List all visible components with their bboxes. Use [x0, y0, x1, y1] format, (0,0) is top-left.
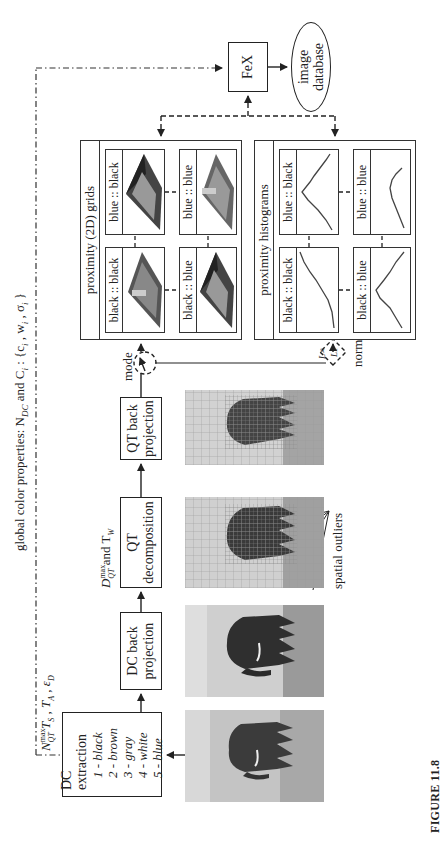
- figure-caption: FIGURE 11.8: [428, 760, 443, 833]
- norm-option-l1: L1: [330, 347, 339, 357]
- dc-parameters-label: NmaxQT TS , TA , εD: [38, 675, 56, 751]
- qt-decomposition-block: QT decomposition: [120, 497, 162, 588]
- norm-option-linf: L∞: [318, 348, 327, 359]
- global-properties-label: global color properties: NDC and Ci : {c…: [12, 293, 30, 551]
- grid-dashed-links: [81, 139, 243, 339]
- hist-dashed-links: [255, 139, 417, 339]
- dc-extraction-title: DC extraction: [59, 713, 89, 790]
- elephant-qt-back-image: [185, 390, 324, 465]
- qt-back-projection-block: QT back projection: [120, 397, 162, 460]
- fex-block: FeX: [228, 42, 268, 92]
- mode-label: mode: [120, 352, 136, 381]
- norm-label: norm: [350, 340, 366, 367]
- dc-color-black: 1 - black: [90, 733, 105, 778]
- elephant-original-image: [185, 710, 324, 802]
- elephant-qt-grid-image: [185, 497, 324, 588]
- dc-color-brown: 2 - brown: [105, 728, 120, 778]
- dc-extraction-block: DC extraction 1 - black 2 - brown 3 - gr…: [62, 712, 162, 797]
- dc-color-blue: 5 - blue: [150, 738, 165, 778]
- dc-back-projection-block: DC back projection: [120, 612, 162, 690]
- elephant-dc-image: [185, 605, 324, 697]
- spatial-outliers-label: spatial outliers: [330, 513, 346, 589]
- image-original: [185, 710, 324, 802]
- proximity-histograms-panel: proximity histograms black :: black blue…: [254, 140, 416, 340]
- dc-color-white: 4 - white: [135, 733, 150, 779]
- image-database: image database: [291, 22, 331, 112]
- image-qt-back-projection: [185, 390, 324, 465]
- qt-parameters-label: DmaxQT and TW: [98, 529, 116, 588]
- figure-stage: global color properties: NDC and Ci : {c…: [0, 0, 446, 851]
- dc-color-gray: 3 - gray: [120, 737, 135, 778]
- image-qt-decomposition: [185, 497, 324, 588]
- image-dc-back-projection: [185, 605, 324, 697]
- proximity-grids-panel: proximity (2D) grids black :: black blue…: [80, 140, 242, 340]
